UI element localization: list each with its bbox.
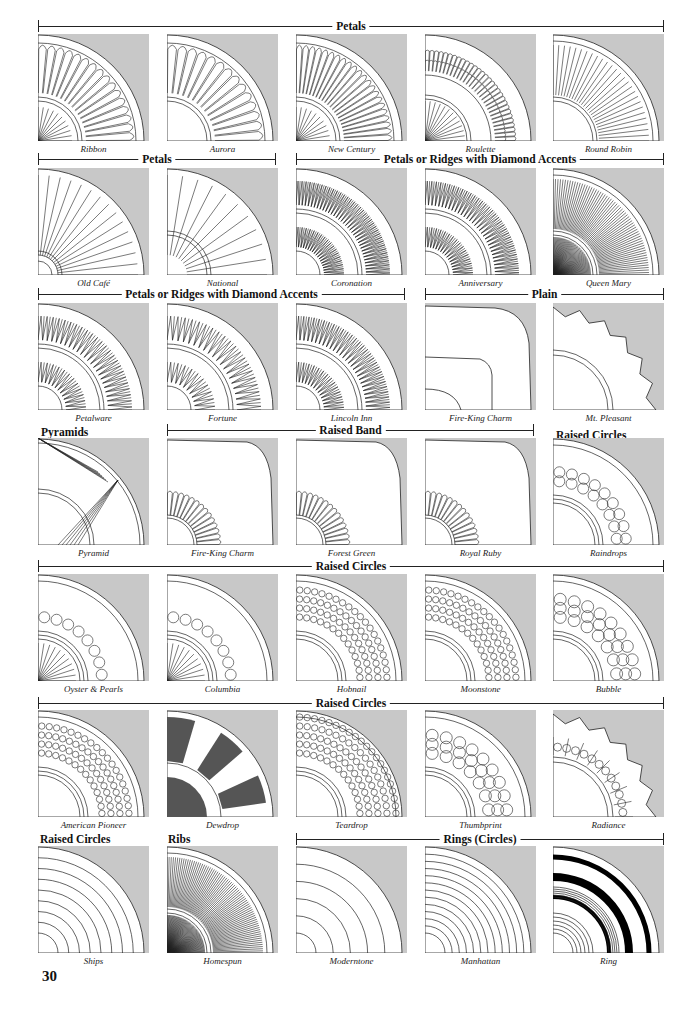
bracket-tick [38, 288, 39, 300]
pattern-caption: Teardrop [296, 820, 407, 831]
pattern-illustration-oyster-pearls [38, 574, 149, 681]
pattern-illustration-thumbprint [425, 710, 536, 817]
section-label: Petals [332, 19, 369, 33]
section-heading: Ribs [168, 832, 190, 846]
pattern-caption: Oyster & Pearls [38, 684, 149, 695]
bracket-tick [167, 424, 168, 436]
section-bracket: Raised Circles [38, 696, 664, 710]
pattern-illustration-royal-ruby [425, 438, 536, 545]
pattern-caption: Queen Mary [553, 278, 664, 289]
bracket-tick [404, 288, 405, 300]
pattern-illustration-pyramid [38, 438, 149, 545]
pattern-illustration-ships [38, 846, 149, 953]
pattern-illustration-mt-pleasant [553, 303, 664, 410]
pattern-caption: Dewdrop [167, 820, 278, 831]
pattern-caption: Hobnail [296, 684, 407, 695]
pattern-illustration-lincoln-inn [296, 303, 407, 410]
pattern-caption: Raindrops [553, 548, 664, 559]
bracket-tick [38, 20, 39, 32]
section-label: Plain [528, 287, 562, 301]
bracket-tick [663, 560, 664, 572]
pattern-illustration-bubble [553, 574, 664, 681]
pattern-illustration-radiance [553, 710, 664, 817]
pattern-illustration-moonstone [425, 574, 536, 681]
section-bracket: Plain [425, 287, 664, 301]
pattern-caption: Round Robin [553, 144, 664, 155]
pattern-illustration-roulette [425, 34, 536, 141]
pattern-caption: Homespun [167, 956, 278, 967]
pattern-illustration-columbia [167, 574, 278, 681]
section-label: Petals or Ridges with Diamond Accents [121, 287, 321, 301]
pattern-caption: Fortune [167, 413, 278, 424]
pattern-illustration-petalware [38, 303, 149, 410]
pattern-illustration-homespun [167, 846, 278, 953]
bracket-tick [663, 833, 664, 845]
pattern-caption: Anniversary [425, 278, 536, 289]
pattern-caption: Manhattan [425, 956, 536, 967]
pattern-illustration-new-century [296, 34, 407, 141]
pattern-illustration-moderntone [296, 846, 407, 953]
pattern-caption: Moonstone [425, 684, 536, 695]
pattern-caption: New Century [296, 144, 407, 155]
pattern-illustration-ribbon [38, 34, 149, 141]
pattern-caption: Columbia [167, 684, 278, 695]
bracket-tick [38, 697, 39, 709]
bracket-tick [296, 833, 297, 845]
section-bracket: Raised Circles [38, 559, 664, 573]
pattern-illustration-fortune [167, 303, 278, 410]
pattern-caption: Ribbon [38, 144, 149, 155]
section-bracket: Petals [38, 19, 664, 33]
pattern-caption: Old Café [38, 278, 149, 289]
pattern-caption: Thumbprint [425, 820, 536, 831]
pattern-caption: Fire-King Charm [425, 413, 536, 424]
pattern-caption: Pyramid [38, 548, 149, 559]
pattern-illustration-national [167, 168, 278, 275]
pattern-illustration-dewdrop [167, 710, 278, 817]
section-label: Rings (Circles) [440, 832, 521, 846]
pattern-illustration-old-caf- [38, 168, 149, 275]
pattern-illustration-teardrop [296, 710, 407, 817]
pattern-illustration-forest-green [296, 438, 407, 545]
pattern-caption: Radiance [553, 820, 664, 831]
pattern-illustration-fire-king-charm [167, 438, 278, 545]
bracket-tick [663, 20, 664, 32]
section-bracket: Rings (Circles) [296, 832, 664, 846]
pattern-illustration-aurora [167, 34, 278, 141]
pattern-caption: Petalware [38, 413, 149, 424]
section-bracket: Raised Band [167, 423, 534, 437]
pattern-illustration-fire-king-charm [425, 303, 536, 410]
pattern-illustration-round-robin [553, 34, 664, 141]
pattern-illustration-queen-mary [553, 168, 664, 275]
bracket-tick [533, 424, 534, 436]
pattern-caption: Forest Green [296, 548, 407, 559]
pattern-caption: Ring [553, 956, 664, 967]
pattern-caption: Moderntone [296, 956, 407, 967]
pattern-caption: Lincoln Inn [296, 413, 407, 424]
pattern-illustration-anniversary [425, 168, 536, 275]
section-label: Raised Band [315, 423, 385, 437]
pattern-illustration-american-pioneer [38, 710, 149, 817]
pattern-caption: Coronation [296, 278, 407, 289]
bracket-tick [38, 560, 39, 572]
pattern-caption: Royal Ruby [425, 548, 536, 559]
bracket-tick [425, 288, 426, 300]
pattern-illustration-manhattan [425, 846, 536, 953]
section-label: Raised Circles [312, 696, 390, 710]
page-number: 30 [42, 968, 57, 985]
pattern-caption: National [167, 278, 278, 289]
pattern-caption: Aurora [167, 144, 278, 155]
pattern-caption: Roulette [425, 144, 536, 155]
bracket-tick [663, 697, 664, 709]
pattern-illustration-raindrops [553, 438, 664, 545]
pattern-illustration-coronation [296, 168, 407, 275]
section-heading: Raised Circles [40, 832, 110, 846]
pattern-illustration-hobnail [296, 574, 407, 681]
pattern-caption: American Pioneer [38, 820, 149, 831]
pattern-illustration-ring [553, 846, 664, 953]
pattern-caption: Bubble [553, 684, 664, 695]
section-bracket: Petals or Ridges with Diamond Accents [38, 287, 405, 301]
pattern-caption: Fire-King Charm [167, 548, 278, 559]
pattern-caption: Mt. Pleasant [553, 413, 664, 424]
bracket-tick [663, 288, 664, 300]
pattern-caption: Ships [38, 956, 149, 967]
